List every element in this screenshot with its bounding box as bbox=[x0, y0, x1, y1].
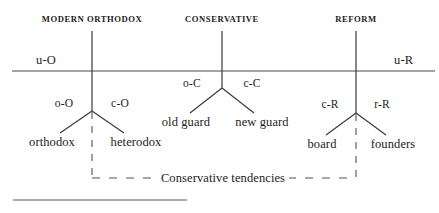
branch-label-o-O: o-O bbox=[55, 98, 74, 110]
bracket-label-conservative-tendencies: Conservative tendencies bbox=[157, 172, 289, 185]
leaf-label-old-guard: old guard bbox=[162, 116, 210, 129]
axis-label-right-u-R: u-R bbox=[394, 54, 413, 67]
fork-right-reform bbox=[356, 113, 386, 135]
branch-label-c-C: c-C bbox=[243, 78, 260, 90]
leaf-label-heterodox: heterodox bbox=[111, 136, 162, 149]
diagram-canvas: MODERN ORTHODOX CONSERVATIVE REFORM u-O … bbox=[0, 0, 439, 213]
fork-right-conservative bbox=[222, 88, 254, 113]
branch-label-o-C: o-C bbox=[183, 78, 201, 90]
leaf-label-orthodox: orthodox bbox=[29, 136, 75, 149]
fork-left-conservative bbox=[190, 88, 222, 113]
column-header-conservative: CONSERVATIVE bbox=[185, 15, 259, 24]
leaf-label-founders: founders bbox=[371, 138, 416, 151]
fork-right-modern-orthodox bbox=[92, 111, 124, 133]
leaf-label-board: board bbox=[308, 138, 337, 151]
fork-left-modern-orthodox bbox=[60, 111, 92, 133]
column-header-reform: REFORM bbox=[335, 15, 377, 24]
branch-label-c-R: c-R bbox=[321, 99, 338, 111]
branch-label-c-O: c-O bbox=[111, 98, 129, 110]
fork-left-reform bbox=[326, 113, 356, 135]
axis-label-left-u-O: u-O bbox=[36, 54, 56, 67]
column-header-modern-orthodox: MODERN ORTHODOX bbox=[42, 15, 142, 24]
branch-label-r-R: r-R bbox=[374, 99, 390, 111]
leaf-label-new-guard: new guard bbox=[235, 116, 288, 129]
